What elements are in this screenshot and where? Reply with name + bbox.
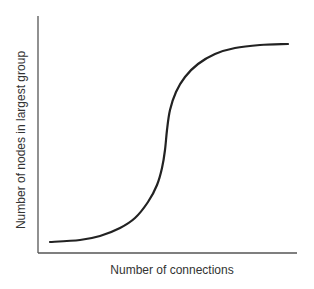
sigmoid-chart: Number of connections Number of nodes in… [0, 0, 314, 289]
y-axis-label: Number of nodes in largest group [14, 51, 28, 229]
data-curve [50, 44, 288, 242]
x-axis-label: Number of connections [110, 263, 233, 277]
